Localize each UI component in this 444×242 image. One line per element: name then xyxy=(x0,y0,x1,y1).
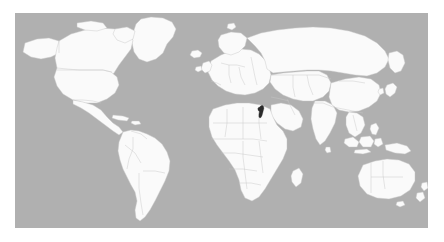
world-locator-map xyxy=(0,0,444,242)
map-viewport[interactable] xyxy=(15,13,428,228)
world-map-svg[interactable] xyxy=(15,13,428,228)
